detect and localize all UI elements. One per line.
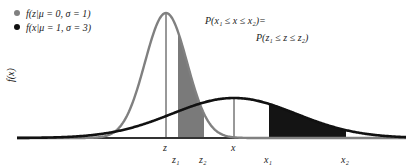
legend-item-standard: f(z|μ = 0, σ = 1) — [14, 6, 91, 20]
general-normal-curve — [17, 98, 406, 138]
tick-x2: x₂ — [341, 155, 349, 165]
tick-z: z — [163, 143, 167, 153]
tick-x: x — [231, 143, 235, 153]
tick-x1: x₁ — [264, 155, 272, 165]
tick-z2: z₂ — [199, 155, 206, 165]
legend: f(z|μ = 0, σ = 1) f(x|μ = 1, σ = 3) — [14, 6, 91, 34]
probability-annotation-line1: P(x₁ ≤ x ≤ x₂)= — [205, 16, 266, 26]
legend-label: f(z|μ = 0, σ = 1) — [26, 8, 91, 19]
gray-dot-icon — [14, 10, 20, 16]
legend-label: f(x|μ = 1, σ = 3) — [26, 22, 91, 33]
y-axis-label: f(x) — [5, 68, 16, 82]
legend-item-general: f(x|μ = 1, σ = 3) — [14, 20, 91, 34]
black-dot-icon — [14, 24, 20, 30]
tick-z1: z₁ — [172, 155, 179, 165]
probability-annotation-line2: P(z₁ ≤ z ≤ z₂) — [256, 33, 308, 43]
